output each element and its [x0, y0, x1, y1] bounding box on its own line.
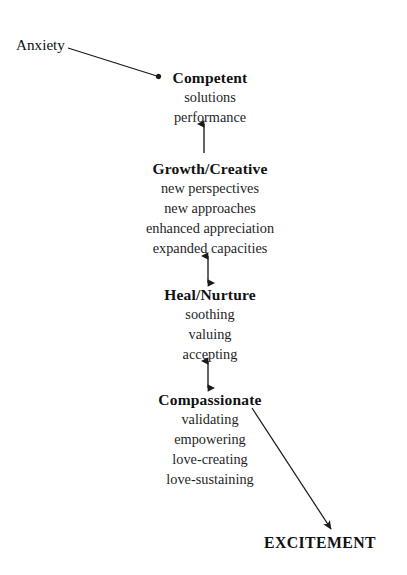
node-heal-nurture-heading: Heal/Nurture — [164, 285, 256, 305]
node-competent-heading: Competent — [173, 68, 248, 88]
node-compassionate-heading: Compassionate — [158, 390, 261, 410]
node-competent-item: solutions — [173, 88, 248, 108]
label-excitement: EXCITEMENT — [264, 534, 376, 552]
node-heal-nurture: Heal/Nurture soothing valuing accepting — [164, 285, 256, 365]
node-growth-creative-heading: Growth/Creative — [146, 159, 274, 179]
node-compassionate-item: empowering — [158, 430, 261, 450]
node-heal-nurture-item: valuing — [164, 325, 256, 345]
node-compassionate-item: love-creating — [158, 450, 261, 470]
node-competent: Competent solutions performance — [173, 68, 248, 128]
node-compassionate-item: validating — [158, 410, 261, 430]
diagram-canvas: Anxiety EXCITEMENT Competent solutions p… — [0, 0, 407, 575]
connector-anxiety-to-competent — [68, 48, 159, 77]
node-competent-item: performance — [173, 108, 248, 128]
connector-compassionate-to-excitement — [252, 408, 331, 529]
label-anxiety: Anxiety — [16, 36, 65, 54]
node-heal-nurture-item: accepting — [164, 345, 256, 365]
node-growth-creative: Growth/Creative new perspectives new app… — [146, 159, 274, 259]
node-growth-creative-item: enhanced appreciation — [146, 219, 274, 239]
node-growth-creative-item: expanded capacities — [146, 239, 274, 259]
node-growth-creative-item: new perspectives — [146, 179, 274, 199]
node-compassionate-item: love-sustaining — [158, 470, 261, 490]
node-heal-nurture-item: soothing — [164, 305, 256, 325]
node-compassionate: Compassionate validating empowering love… — [158, 390, 261, 490]
node-growth-creative-item: new approaches — [146, 199, 274, 219]
